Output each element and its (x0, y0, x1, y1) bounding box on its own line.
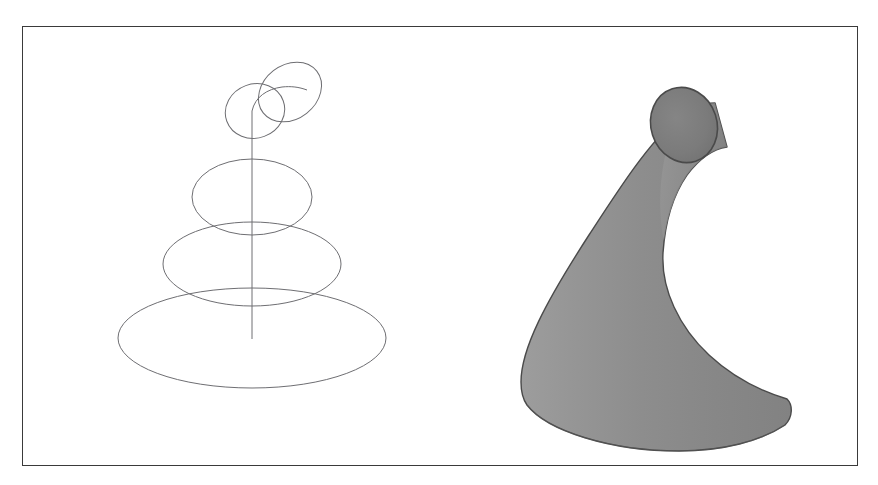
figure-frame-border (22, 26, 858, 466)
cross-section-ring-tip-upper (247, 50, 334, 134)
solid-panel (441, 27, 859, 465)
wireframe-drawing (23, 27, 441, 465)
wireframe-panel (23, 27, 441, 465)
cross-section-ring-tip-lower (218, 75, 293, 146)
solid-surface-drawing (441, 27, 859, 465)
figure-page: Two side-by-side renderings of a surface… (0, 0, 878, 485)
solid-body-surface (521, 103, 791, 451)
